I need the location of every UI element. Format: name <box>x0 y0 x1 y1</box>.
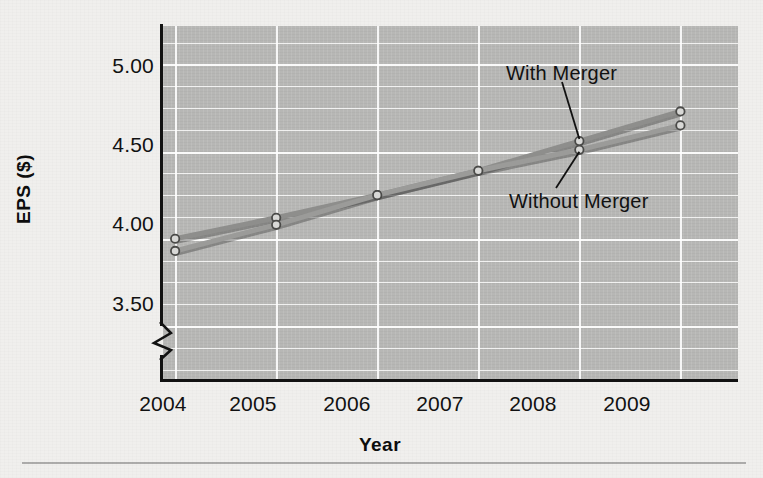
y-axis-title: EPS ($) <box>13 129 35 249</box>
gridline-vertical-2007 <box>478 26 480 380</box>
x-tick-label-2006: 2006 <box>302 392 392 416</box>
x-tick-label-2008: 2008 <box>488 392 578 416</box>
x-tick-label-2004: 2004 <box>118 392 208 416</box>
x-axis-title: Year <box>310 434 450 456</box>
gridline-horizontal-major <box>163 239 738 241</box>
gridline-vertical-2005 <box>276 26 278 380</box>
gridline-horizontal-minor <box>163 173 738 174</box>
gridline-horizontal-minor <box>163 304 738 305</box>
chart-figure: 5.00 4.50 4.00 3.50 EPS ($) 2004 2005 20… <box>0 0 763 478</box>
gridline-horizontal-major <box>163 64 738 66</box>
gridline-horizontal-minor <box>163 261 738 262</box>
x-tick-label-2007: 2007 <box>395 392 485 416</box>
gridline-horizontal-major <box>163 326 738 328</box>
gridline-vertical-2004 <box>175 26 177 380</box>
y-tick-label: 5.00 <box>76 54 154 78</box>
annotation-with-merger: With Merger <box>506 62 617 85</box>
y-axis-line <box>160 24 163 326</box>
gridline-horizontal-minor <box>163 348 738 349</box>
y-tick-label: 4.00 <box>76 212 154 236</box>
gridline-horizontal-minor <box>163 86 738 87</box>
x-axis-line <box>160 379 738 382</box>
y-tick-label: 4.50 <box>76 133 154 157</box>
y-axis-break-icon <box>151 322 173 360</box>
gridline-horizontal-minor <box>163 130 738 131</box>
gridline-horizontal-minor <box>163 282 738 283</box>
plot-area <box>163 26 738 380</box>
x-tick-label-2005: 2005 <box>208 392 298 416</box>
gridline-horizontal-minor <box>163 43 738 44</box>
gridline-horizontal-minor <box>163 108 738 109</box>
annotation-without-merger: Without Merger <box>509 190 649 213</box>
gridline-horizontal-minor <box>163 195 738 196</box>
x-tick-label-2009: 2009 <box>582 392 672 416</box>
y-tick-label: 3.50 <box>76 292 154 316</box>
page-bottom-rule <box>22 462 746 464</box>
gridline-horizontal-minor <box>163 217 738 218</box>
gridline-vertical-2009 <box>680 26 682 380</box>
gridline-horizontal-major <box>163 152 738 154</box>
gridline-horizontal-minor <box>163 370 738 371</box>
gridline-vertical-2006 <box>377 26 379 380</box>
